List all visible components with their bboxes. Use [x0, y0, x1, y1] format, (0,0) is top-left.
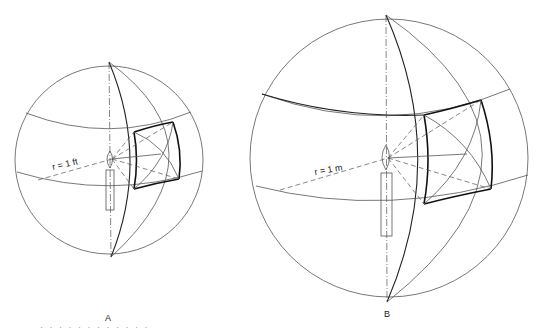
panel-label-b: B [384, 309, 390, 319]
illumination-sphere-diagram: r = 1 ft A r = 1 m B [0, 0, 539, 332]
radius-label-a: r = 1 ft [51, 156, 79, 172]
radius-label-b: r = 1 m [314, 162, 344, 177]
caption-fragment: · · · · · · · · · · · · [40, 322, 149, 332]
sphere-b [250, 15, 528, 302]
sphere-a [15, 62, 203, 257]
